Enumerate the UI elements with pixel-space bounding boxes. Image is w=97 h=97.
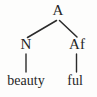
- tree-node-n: N: [21, 37, 32, 52]
- tree-leaf-ful: ful: [67, 74, 83, 88]
- branch-root-to-n: [28, 21, 57, 38]
- morphology-tree-figure: A N Af beauty ful: [0, 0, 97, 97]
- tree-leaf-beauty: beauty: [7, 74, 44, 88]
- branch-root-to-af: [60, 21, 78, 38]
- tree-node-root-a: A: [53, 3, 64, 18]
- tree-node-af: Af: [69, 37, 85, 52]
